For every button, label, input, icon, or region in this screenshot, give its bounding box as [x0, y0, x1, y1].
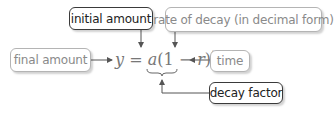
- final-amount-text: final amount: [14, 54, 88, 66]
- eq-y: y: [115, 50, 124, 69]
- eq-open: (1 −: [157, 50, 197, 69]
- arrow-decay-to-brace: [162, 80, 209, 93]
- eq-r: r: [197, 50, 205, 69]
- eq-a: a: [148, 50, 158, 69]
- time-label: time: [210, 50, 250, 72]
- eq-equals: =: [124, 50, 148, 69]
- rate-of-decay-label: rate of decay (in decimal form): [165, 7, 322, 32]
- decay-equation: y = a(1 − r)t: [115, 50, 215, 69]
- decay-factor-label: decay factor: [209, 82, 283, 104]
- brace: [147, 69, 177, 76]
- time-text: time: [217, 55, 243, 67]
- decay-factor-text: decay factor: [210, 87, 283, 99]
- initial-amount-text: initial amount: [71, 13, 151, 25]
- final-amount-label: final amount: [10, 48, 91, 72]
- initial-amount-label: initial amount: [69, 7, 153, 30]
- rate-of-decay-text: rate of decay (in decimal form): [153, 14, 333, 26]
